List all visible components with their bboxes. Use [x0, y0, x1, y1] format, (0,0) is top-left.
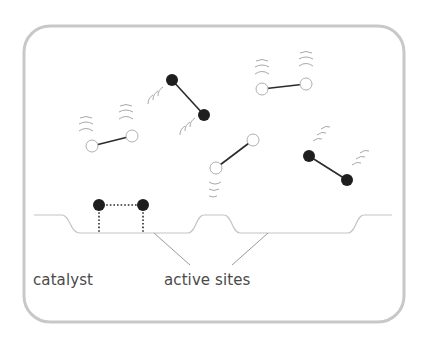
catalyst-label: catalyst	[33, 273, 93, 288]
free-molecule-light-3	[209, 134, 259, 197]
dark-atom-icon	[198, 109, 210, 121]
free-molecule-dark-2	[303, 126, 369, 186]
light-atom-icon	[210, 162, 222, 174]
vibration-arcs-icon	[313, 126, 369, 165]
light-atom-icon	[247, 134, 259, 146]
light-atom-icon	[300, 78, 312, 90]
vibration-arcs-icon	[209, 182, 221, 197]
free-molecule-dark-1	[148, 74, 210, 135]
light-atom-icon	[126, 130, 138, 142]
dark-atom-icon	[166, 74, 178, 86]
light-atom-icon	[256, 83, 268, 95]
bond	[172, 80, 204, 115]
bond	[262, 84, 306, 89]
dark-atom-icon	[93, 199, 105, 211]
bond	[309, 156, 347, 180]
dark-atom-icon	[341, 174, 353, 186]
free-molecule-light-2	[255, 52, 313, 96]
leader-line-active-site-2	[232, 233, 268, 265]
adsorbed-molecule	[93, 199, 149, 233]
vibration-arcs-icon	[148, 87, 195, 135]
catalyst-surface	[34, 215, 392, 233]
vibration-arcs-icon	[79, 105, 133, 132]
free-molecule-light-1	[79, 105, 138, 153]
bond	[216, 140, 253, 168]
active-sites-label: active sites	[164, 273, 250, 288]
dark-atom-icon	[303, 150, 315, 162]
dark-atom-icon	[137, 199, 149, 211]
catalysis-diagram	[0, 0, 432, 340]
leader-line-active-site-1	[154, 233, 190, 265]
light-atom-icon	[86, 140, 98, 152]
vibration-arcs-icon	[255, 52, 313, 75]
